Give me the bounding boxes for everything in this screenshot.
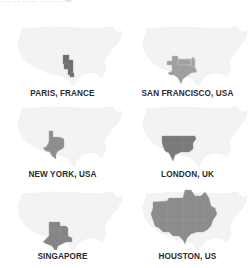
city-label: SINGAPORE — [0, 252, 125, 261]
us-map-icon — [125, 97, 250, 167]
city-card-new-york[interactable]: NEW YORK, USA — [0, 97, 125, 181]
cut-off-header: ... ... ...... ...... ...M — [0, 0, 251, 4]
us-map-icon — [125, 180, 250, 250]
us-map-icon — [0, 180, 125, 250]
city-label: NEW YORK, USA — [0, 170, 125, 179]
city-card-singapore[interactable]: SINGAPORE — [0, 180, 125, 264]
us-map-icon — [0, 97, 125, 167]
city-label: HOUSTON, US — [125, 252, 250, 261]
city-card-london[interactable]: LONDON, UK — [125, 97, 250, 181]
city-card-houston[interactable]: HOUSTON, US — [125, 180, 250, 264]
header-text: ... ... ...... ...... ...M — [2, 0, 72, 4]
us-map-icon — [125, 15, 250, 85]
city-card-paris[interactable]: PARIS, FRANCE — [0, 15, 125, 99]
city-label: LONDON, UK — [125, 170, 250, 179]
city-card-san-francisco[interactable]: SAN FRANCISCO, USA — [125, 15, 250, 99]
us-map-icon — [0, 15, 125, 85]
